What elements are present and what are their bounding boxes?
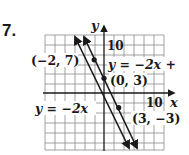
label-line-neg2x-plus-3: y = −2x + [107,57,176,72]
point-3-neg3 [116,105,121,110]
point-0-3 [101,76,106,81]
point-neg2-7 [92,57,97,62]
label-point-0-3: (0, 3) [110,73,148,88]
problem-number: 7. [2,21,16,40]
graph-figure: 7. [0,0,189,155]
label-point-neg2-7: (−2, 7) [31,53,79,68]
y-tick-label: 10 [107,39,124,53]
coordinate-plane: 7. [0,0,189,155]
y-axis-label: y [90,18,100,33]
label-point-3-neg3: (3, −3) [132,111,180,126]
x-axis-label: x [169,95,178,110]
label-line-neg2x: y = −2x [34,101,89,116]
x-tick-label: 10 [146,96,163,110]
